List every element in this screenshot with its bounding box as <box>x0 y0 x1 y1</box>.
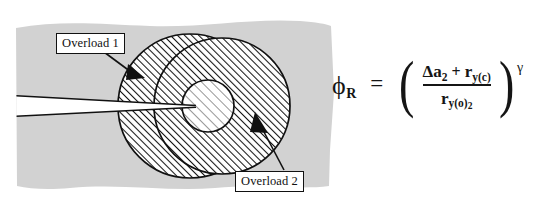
left-parenthesis: ( <box>399 61 414 108</box>
exponent-gamma: γ <box>517 60 523 76</box>
fraction-numerator: Δa2+ry(c) <box>423 62 491 84</box>
figure-root: Overload 1 Overload 2 ϕR = ( Δa2+ry(c) r… <box>0 0 548 213</box>
denominator-sub: y(o) <box>448 97 467 109</box>
equation-block: ϕR = ( Δa2+ry(c) ry(o)2 ) γ <box>332 62 523 109</box>
denominator-subsub: 2 <box>468 101 473 111</box>
numerator-term1-sub: 2 <box>442 71 448 83</box>
right-parenthesis: ) <box>499 61 514 108</box>
plus-sign: + <box>452 63 461 81</box>
fraction-denominator: ry(o)2 <box>441 86 472 109</box>
delta-symbol: Δ <box>423 62 434 82</box>
parenthesized-fraction: ( Δa2+ry(c) ry(o)2 ) γ <box>396 62 523 109</box>
phi-symbol: ϕ <box>332 71 346 100</box>
phi-subscript-R: R <box>346 86 356 101</box>
fraction: Δa2+ry(c) ry(o)2 <box>419 62 495 109</box>
numerator-term1-base: a <box>433 62 442 82</box>
numerator-term2-sub: y(c) <box>472 71 491 83</box>
equation-lhs: ϕR <box>332 71 356 102</box>
callout-overload-1: Overload 1 <box>56 33 125 54</box>
equals-sign: = <box>370 71 383 97</box>
denominator-base: r <box>441 89 449 109</box>
numerator-term2-base: r <box>465 62 473 82</box>
callout-overload-2: Overload 2 <box>235 171 304 192</box>
